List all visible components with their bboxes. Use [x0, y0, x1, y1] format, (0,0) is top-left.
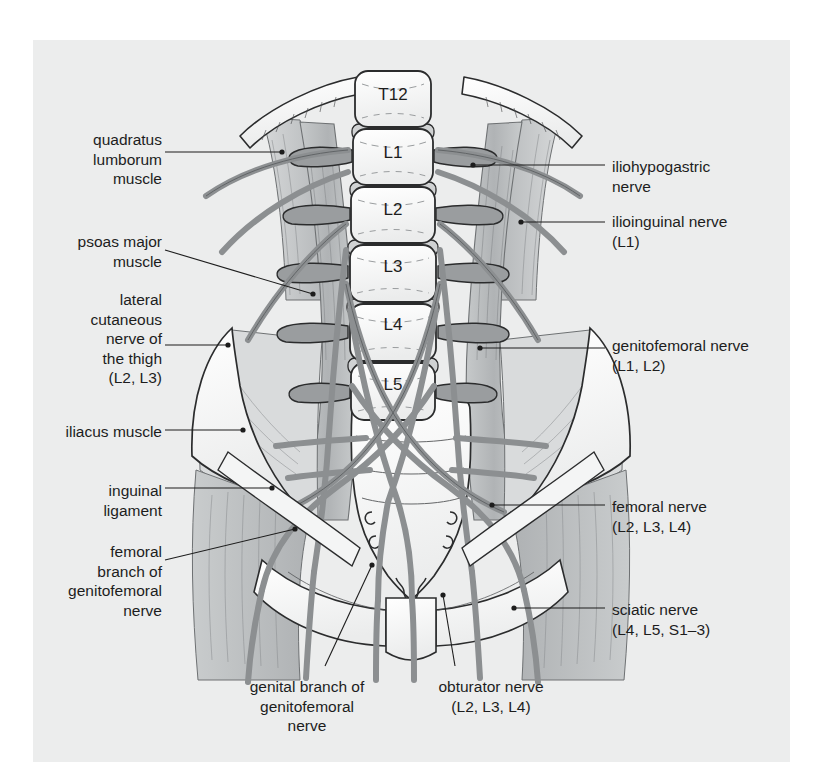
label-lateral-cutaneous-nerve-of-the-thigh: lateral cutaneous nerve of the thigh (L2… [12, 290, 162, 388]
label-inguinal-ligament: inguinal ligament [12, 481, 162, 520]
leader-psoas-major-dot [310, 291, 315, 296]
label-obturator-nerve: obturator nerve (L2, L3, L4) [406, 677, 576, 716]
anatomy-illustration: T12L1L2L3L4L5 [0, 0, 819, 783]
label-genitofemoral-nerve: genitofemoral nerve (L1, L2) [612, 336, 818, 375]
label-quadratus-lumborum-muscle: quadratus lumborum muscle [12, 130, 162, 189]
vertebra-label-t12: T12 [378, 85, 407, 104]
vertebra-label-l1: L1 [384, 143, 403, 162]
leader-ilioinguinal-dot [518, 219, 523, 224]
label-genital-branch-of-genitofemoral-nerve: genital branch of genitofemoral nerve [212, 677, 402, 736]
leader-iliacus-muscle-dot [240, 427, 245, 432]
leader-sciatic-nerve-dot [511, 605, 516, 610]
vertebra-label-l3: L3 [384, 257, 403, 276]
leader-femoral-nerve-dot [489, 502, 494, 507]
leader-lateral-cutaneous-nerve-dot [225, 342, 230, 347]
label-femoral-branch-of-genitofemoral-nerve: femoral branch of genitofemoral nerve [4, 542, 162, 620]
vertebra-label-l5: L5 [384, 375, 403, 394]
vertebra-label-l4: L4 [384, 315, 403, 334]
anatomical-figure: T12L1L2L3L4L5 quadratus lumborum musclep… [0, 0, 819, 783]
label-ilioinguinal-nerve: ilioinguinal nerve (L1) [612, 212, 812, 251]
label-femoral-nerve: femoral nerve (L2, L3, L4) [612, 497, 812, 536]
leader-inguinal-ligament-dot [269, 485, 274, 490]
label-sciatic-nerve: sciatic nerve (L4, L5, S1–3) [612, 600, 812, 639]
label-iliacus-muscle: iliacus muscle [12, 422, 162, 442]
leader-obturator-nerve-dot [440, 592, 445, 597]
leader-femoral-branch-dot [292, 526, 297, 531]
vertebra-label-l2: L2 [384, 200, 403, 219]
label-iliohypogastric-nerve: iliohypogastric nerve [612, 157, 812, 196]
leader-quadratus-lumborum-dot [279, 149, 284, 154]
leader-genital-branch-dot [369, 562, 374, 567]
label-psoas-major-muscle: psoas major muscle [12, 232, 162, 271]
leader-iliohypogastric-dot [470, 162, 475, 167]
leader-genitofemoral-dot [477, 345, 482, 350]
